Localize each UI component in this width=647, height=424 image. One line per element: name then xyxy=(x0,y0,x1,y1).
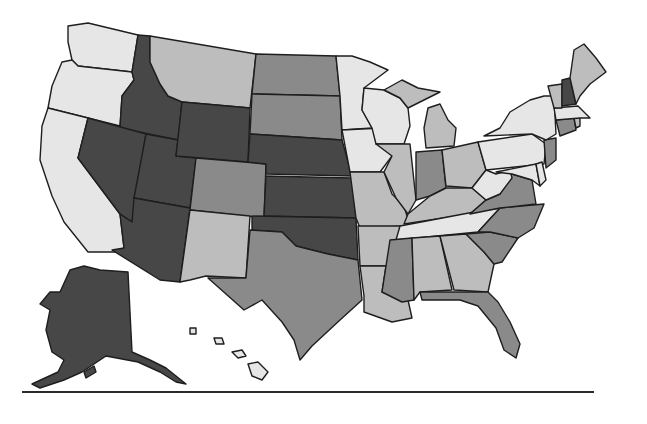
bottom-rule xyxy=(22,391,594,393)
state-FL[interactable] xyxy=(420,292,520,358)
state-WY[interactable] xyxy=(176,102,250,162)
us-choropleth-map xyxy=(0,0,647,424)
state-HI-kauai[interactable] xyxy=(190,328,196,334)
state-HI-big-island[interactable] xyxy=(248,362,268,380)
state-AK[interactable] xyxy=(32,266,186,388)
state-WA[interactable] xyxy=(68,23,138,72)
state-HI-maui[interactable] xyxy=(232,350,246,358)
state-CO[interactable] xyxy=(190,158,266,218)
state-SD[interactable] xyxy=(250,94,342,140)
state-KS[interactable] xyxy=(264,176,356,218)
state-NY[interactable] xyxy=(484,96,556,140)
state-ND[interactable] xyxy=(252,54,340,96)
state-NM[interactable] xyxy=(180,210,250,282)
state-MI[interactable] xyxy=(424,104,456,148)
state-NJ[interactable] xyxy=(544,138,556,168)
state-CT[interactable] xyxy=(556,118,576,136)
map-canvas xyxy=(0,0,647,424)
state-HI-oahu[interactable] xyxy=(214,338,224,344)
state-ME[interactable] xyxy=(570,44,606,104)
